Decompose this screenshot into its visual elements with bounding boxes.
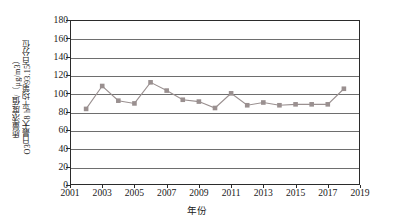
gridline-20 — [71, 168, 359, 169]
y-tick-label-160: 160 — [40, 34, 68, 44]
gridline-120 — [71, 76, 359, 77]
y-tick-label-40: 40 — [40, 144, 68, 154]
gridline-80 — [71, 113, 359, 114]
y-tick-label-140: 140 — [40, 52, 68, 62]
y-axis-title-line-2: 质量浓度值/（μg/m3） — [13, 56, 23, 138]
y-tick-label-120: 120 — [40, 70, 68, 80]
ozone-percentile-line-chart: O3日最大8 h平均第93.15百分位 质量浓度值/（μg/m3） 180 16… — [0, 0, 394, 224]
gridline-160 — [71, 39, 359, 40]
gridline-140 — [71, 58, 359, 59]
y-axis-title-line-1: O3日最大8 h平均第93.15百分位 — [23, 40, 33, 154]
x-tick-label-2019: 2019 — [340, 188, 380, 198]
gridline-100 — [71, 94, 359, 95]
y-axis-title: O3日最大8 h平均第93.15百分位 质量浓度值/（μg/m3） — [6, 8, 40, 186]
y-tick-label-180: 180 — [40, 15, 68, 25]
y-tick-label-100: 100 — [40, 89, 68, 99]
x-axis-title: 年份 — [0, 203, 394, 217]
plot-area — [70, 20, 360, 185]
gridline-40 — [71, 149, 359, 150]
y-tick-label-80: 80 — [40, 107, 68, 117]
y-tick-label-60: 60 — [40, 125, 68, 135]
y-tick-label-20: 20 — [40, 162, 68, 172]
gridline-60 — [71, 131, 359, 132]
